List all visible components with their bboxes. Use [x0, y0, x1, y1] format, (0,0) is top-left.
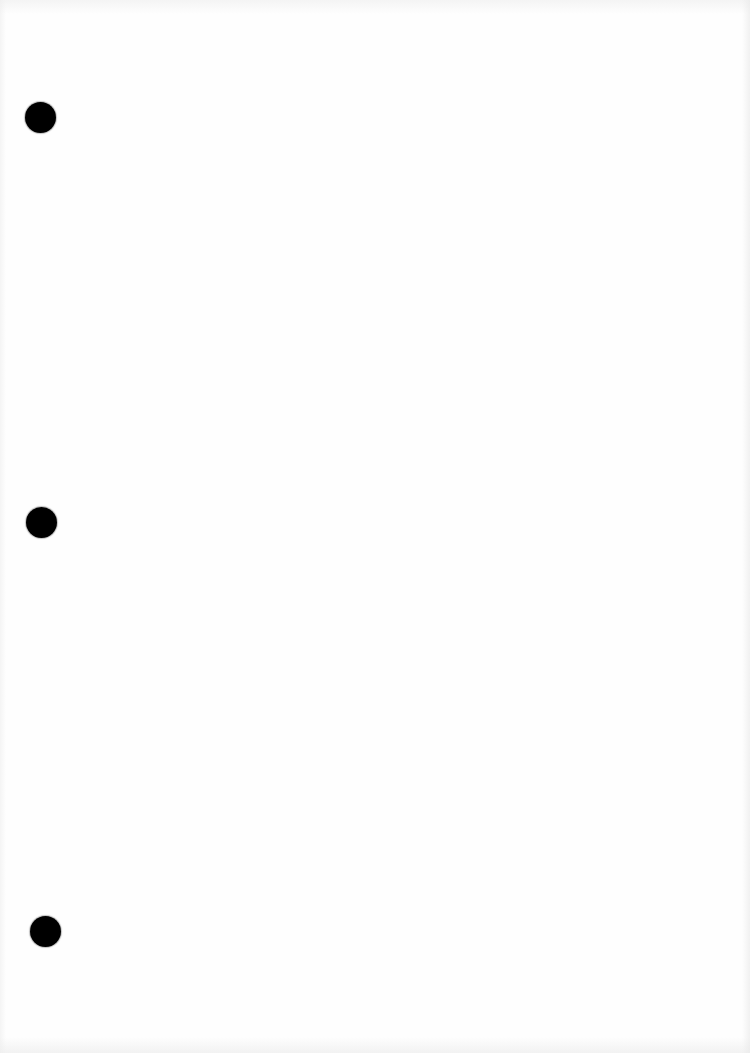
punch-hole-top — [25, 102, 56, 133]
punch-hole-middle — [26, 507, 57, 538]
punch-hole-bottom — [30, 916, 61, 947]
scan-edge-bottom — [0, 1037, 750, 1053]
page-body-text — [80, 40, 700, 1000]
scanned-page — [0, 0, 750, 1053]
scan-edge-top — [0, 0, 750, 14]
scan-edge-left — [0, 0, 6, 1053]
scan-edge-right — [742, 0, 750, 1053]
